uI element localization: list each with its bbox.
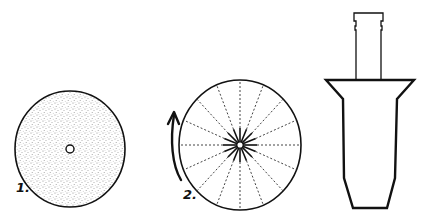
spoked-disc (179, 80, 301, 210)
hub-hole (237, 142, 243, 148)
stippled-disc (15, 91, 125, 207)
funnel-vessel (326, 13, 414, 208)
diagram-canvas (0, 0, 428, 222)
figure-label-1: 1. (16, 180, 30, 195)
center-hole (66, 145, 74, 153)
figure-label-2: 2. (183, 187, 197, 202)
